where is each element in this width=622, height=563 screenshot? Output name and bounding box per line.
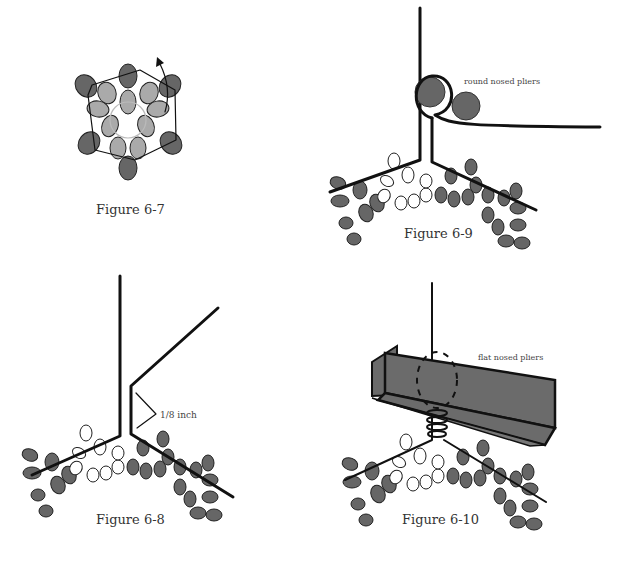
diagram-page: Figure 6-7 round nosed pliers Figure 6-9… — [0, 0, 622, 563]
measurement-label: 1/8 inch — [160, 410, 197, 420]
figure-6-9-diagram — [328, 8, 600, 249]
figure-6-7-caption: Figure 6-7 — [96, 202, 165, 217]
figure-6-10-diagram — [340, 283, 555, 530]
arrow-head-icon — [156, 57, 164, 67]
figure-6-8-caption: Figure 6-8 — [96, 512, 165, 527]
figure-6-9-caption: Figure 6-9 — [404, 226, 473, 241]
diagram-canvas: Figure 6-7 round nosed pliers Figure 6-9… — [0, 0, 622, 563]
round-pliers-label: round nosed pliers — [464, 77, 540, 86]
figure-6-7-bead-ring — [71, 57, 187, 180]
figure-6-10-caption: Figure 6-10 — [402, 512, 479, 527]
figure-6-8-diagram — [20, 276, 233, 521]
flat-pliers-label: flat nosed pliers — [478, 353, 543, 362]
round-pliers-jaw-2 — [452, 92, 480, 120]
